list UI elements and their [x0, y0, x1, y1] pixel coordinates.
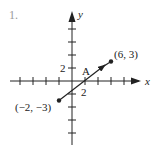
y-axis-label: y: [77, 8, 83, 20]
start-point: [57, 98, 61, 102]
x-axis-label: x: [144, 75, 150, 87]
x-axis-arrow-icon: [131, 78, 141, 85]
problem-number: 1.: [9, 8, 18, 22]
x-tick-label: 2: [81, 86, 87, 98]
y-axis-arrow-icon: [69, 11, 76, 22]
start-point-label: (−2, −3): [15, 101, 52, 114]
end-point: [109, 59, 113, 63]
y-tick-label: 2: [60, 62, 66, 74]
x-axis: x 2: [10, 75, 150, 98]
coordinate-diagram: 1. x 2 y 2: [0, 0, 157, 151]
midpoint-label: A: [82, 65, 90, 77]
y-axis: y 2: [60, 8, 83, 145]
end-point-label: (6, 3): [114, 48, 138, 61]
